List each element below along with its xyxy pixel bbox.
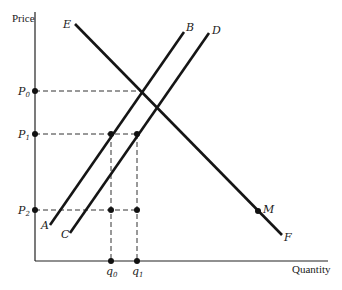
q0-p2-dot: [108, 207, 114, 213]
x-axis-label: Quantity: [292, 263, 331, 275]
q1-dot: [134, 258, 140, 264]
p2-dot: [32, 207, 38, 213]
y-axis-label: Price: [12, 12, 35, 24]
label-a: A: [40, 219, 49, 232]
curve-ef: [75, 24, 282, 235]
q1-p2-dot: [134, 207, 140, 213]
label-b: B: [185, 21, 194, 34]
label-c: C: [61, 228, 70, 241]
label-p2: P2: [17, 204, 30, 218]
p1-dot: [32, 131, 38, 137]
label-q0: q0: [106, 265, 118, 279]
label-d: D: [211, 24, 221, 37]
label-f: F: [283, 231, 292, 244]
ab-p1-dot: [108, 131, 114, 137]
p0-dot: [32, 88, 38, 94]
label-p1: P1: [17, 128, 30, 142]
label-m: M: [262, 203, 275, 216]
curve-ab: [50, 32, 184, 225]
q0-dot: [108, 258, 114, 264]
cd-p1-dot: [134, 131, 140, 137]
point-m-dot: [255, 208, 261, 214]
label-e: E: [62, 18, 71, 31]
label-p0: P0: [17, 85, 30, 99]
label-q1: q1: [132, 265, 144, 279]
supply-demand-diagram: Price Quantity E B D A C F M P0 P1 P2 q0…: [0, 0, 342, 290]
